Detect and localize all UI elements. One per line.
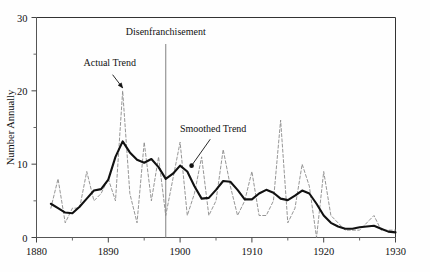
series-line-actual-trend <box>51 91 396 238</box>
x-tick-label: 1920 <box>313 246 334 257</box>
smoothed-trend-annotation-marker-dot <box>189 163 194 168</box>
x-tick-label: 1880 <box>26 246 47 257</box>
actual-trend-annotation-arrowhead <box>118 83 123 88</box>
x-tick-label: 1900 <box>170 246 191 257</box>
y-tick-label: 10 <box>17 159 28 170</box>
y-tick-label: 30 <box>17 13 28 24</box>
chart-canvas: 1880189019001910192019300102030Number An… <box>0 0 430 272</box>
x-tick-label: 1930 <box>385 246 406 257</box>
x-tick-label: 1910 <box>241 246 262 257</box>
actual-trend-annotation-label: Actual Trend <box>83 57 136 68</box>
y-tick-label: 0 <box>22 233 27 244</box>
disenfranchisement-annotation-label: Disenfranchisement <box>126 26 206 37</box>
y-axis-title: Number Annually <box>5 89 16 165</box>
smoothed-trend-annotation-label: Smoothed Trend <box>180 123 246 134</box>
y-tick-label: 20 <box>17 86 28 97</box>
x-tick-label: 1890 <box>98 246 119 257</box>
series-line-smoothed-trend <box>51 141 396 232</box>
chart-container: 1880189019001910192019300102030Number An… <box>0 0 430 272</box>
